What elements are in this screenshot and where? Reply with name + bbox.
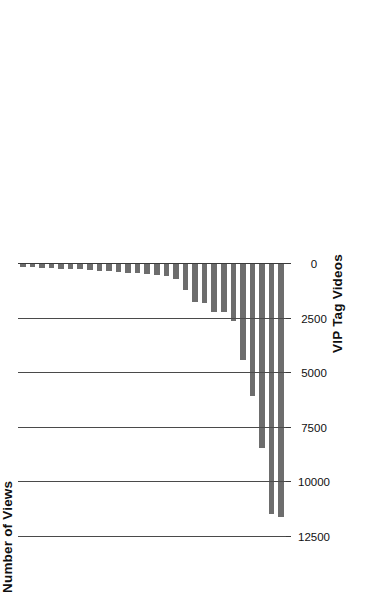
axis-tick-mark xyxy=(286,372,291,373)
axis-tick-mark xyxy=(286,427,291,428)
gridline xyxy=(18,536,286,537)
bar xyxy=(58,264,64,269)
bars-layer xyxy=(18,264,286,537)
bar xyxy=(97,264,103,271)
axis-tick-label: 0 xyxy=(294,258,334,270)
gridline xyxy=(18,318,286,319)
bar-chart-figure: Number of Views 12500100007500500025000 … xyxy=(0,0,365,607)
axis-tick-mark xyxy=(286,536,291,537)
bar xyxy=(77,264,83,269)
bar xyxy=(144,264,150,274)
bar xyxy=(269,264,275,514)
axis-tick-mark xyxy=(286,481,291,482)
gridline xyxy=(18,372,286,373)
bar xyxy=(183,264,189,290)
bar xyxy=(87,264,93,270)
value-axis-title: Number of Views xyxy=(0,293,15,593)
bar xyxy=(49,264,55,268)
bar xyxy=(259,264,265,448)
bar xyxy=(135,264,141,273)
bar xyxy=(164,264,170,276)
axis-tick-label: 5000 xyxy=(294,367,334,379)
plot-wrapper: Number of Views 12500100007500500025000 … xyxy=(0,0,365,607)
bar xyxy=(221,264,227,312)
bar xyxy=(202,264,208,303)
bar xyxy=(211,264,217,312)
bar xyxy=(68,264,74,269)
bar xyxy=(125,264,131,273)
gridline xyxy=(18,481,286,482)
axis-tick-mark xyxy=(286,318,291,319)
bar xyxy=(20,264,26,267)
bar xyxy=(231,264,237,321)
axis-tick-mark xyxy=(286,263,291,264)
axis-tick-label: 10000 xyxy=(294,476,334,488)
bar xyxy=(250,264,256,396)
axis-tick-label: 7500 xyxy=(294,422,334,434)
bar xyxy=(154,264,160,275)
bar xyxy=(39,264,45,268)
value-axis-baseline xyxy=(18,263,286,264)
axis-tick-label: 2500 xyxy=(294,313,334,325)
bar xyxy=(240,264,246,360)
bar xyxy=(30,264,36,267)
plot-area xyxy=(18,264,286,537)
bar xyxy=(173,264,179,279)
bar xyxy=(116,264,122,272)
bar xyxy=(106,264,112,271)
axis-tick-label: 12500 xyxy=(294,531,334,543)
bar xyxy=(192,264,198,302)
gridline xyxy=(18,427,286,428)
category-axis-title: VIP Tag Videos xyxy=(330,0,345,607)
bar xyxy=(278,264,284,517)
